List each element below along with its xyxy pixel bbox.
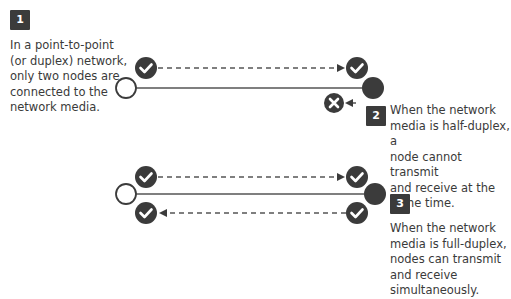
full-duplex-diagram <box>116 166 386 224</box>
check-circle-icon <box>346 166 368 188</box>
check-circle-icon <box>346 202 368 224</box>
filled-node-icon <box>362 77 384 99</box>
open-node-icon <box>116 78 136 98</box>
check-circle-icon <box>135 202 157 224</box>
half-duplex-diagram <box>116 57 384 113</box>
check-circle-icon <box>135 57 157 79</box>
x-circle-icon <box>324 93 344 113</box>
check-circle-icon <box>135 166 157 188</box>
filled-node-icon <box>364 183 386 205</box>
open-node-icon <box>116 184 136 204</box>
check-circle-icon <box>346 57 368 79</box>
